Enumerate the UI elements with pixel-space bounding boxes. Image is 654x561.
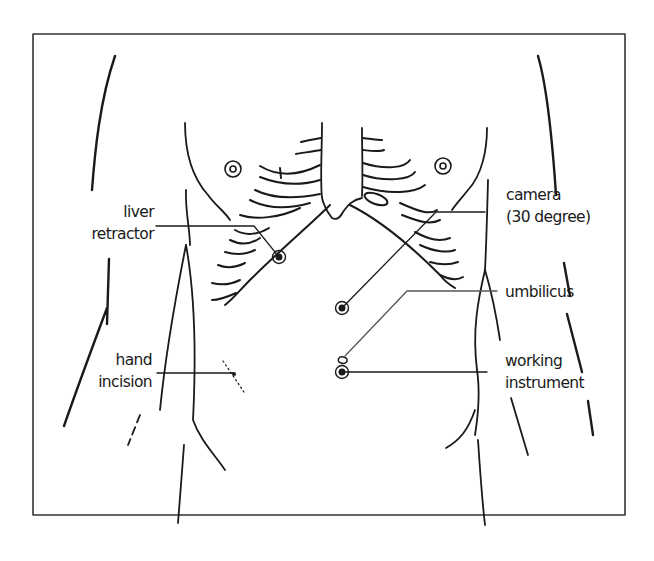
umbilicus-leader (345, 291, 497, 356)
camera-leader (342, 212, 485, 308)
torso-left-outline (128, 123, 230, 523)
label-working-instrument: working instrument (505, 350, 584, 394)
label-liver-retractor-line1: liver (91, 201, 154, 223)
label-working-instrument-line2: instrument (505, 372, 584, 394)
liver-retractor-leader (156, 226, 279, 257)
right-nipple (435, 158, 451, 174)
hand-incision-marker (232, 372, 236, 376)
leader-lines (156, 212, 497, 373)
label-liver-retractor: liver retractor (91, 201, 154, 245)
label-camera: camera (30 degree) (506, 184, 590, 228)
label-working-instrument-line1: working (505, 350, 584, 372)
figure-frame (33, 34, 625, 515)
hand-incision-line (223, 361, 244, 392)
camera-port-icon (336, 302, 349, 315)
left-nipple (225, 161, 241, 177)
label-camera-line1: camera (506, 184, 590, 206)
label-umbilicus-line1: umbilicus (505, 281, 574, 303)
label-camera-line2: (30 degree) (506, 206, 590, 228)
label-umbilicus: umbilicus (505, 281, 574, 303)
label-hand-incision-line2: incision (98, 371, 152, 393)
label-hand-incision-line1: hand (98, 349, 152, 371)
port-placement-diagram: liver retractor hand incision camera (30… (0, 0, 654, 561)
label-liver-retractor-line2: retractor (91, 223, 154, 245)
label-hand-incision: hand incision (98, 349, 152, 393)
left-ribs (212, 138, 330, 305)
umbilicus-mark (338, 357, 347, 364)
right-ribs (350, 138, 463, 288)
xiphoid (321, 123, 362, 219)
